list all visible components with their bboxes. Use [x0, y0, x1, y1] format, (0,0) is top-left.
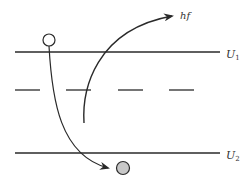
lower-level-label: U2 — [226, 149, 240, 163]
upper-level-label: U1 — [226, 48, 240, 62]
energy-level-diagram: U1 U2 hf — [0, 0, 247, 191]
photon-energy-label: hf — [180, 10, 192, 21]
particle-transition-arrow — [49, 46, 108, 168]
final-particle-icon — [117, 162, 130, 175]
photon-emission-arrow — [84, 16, 172, 123]
initial-particle-icon — [43, 34, 55, 46]
